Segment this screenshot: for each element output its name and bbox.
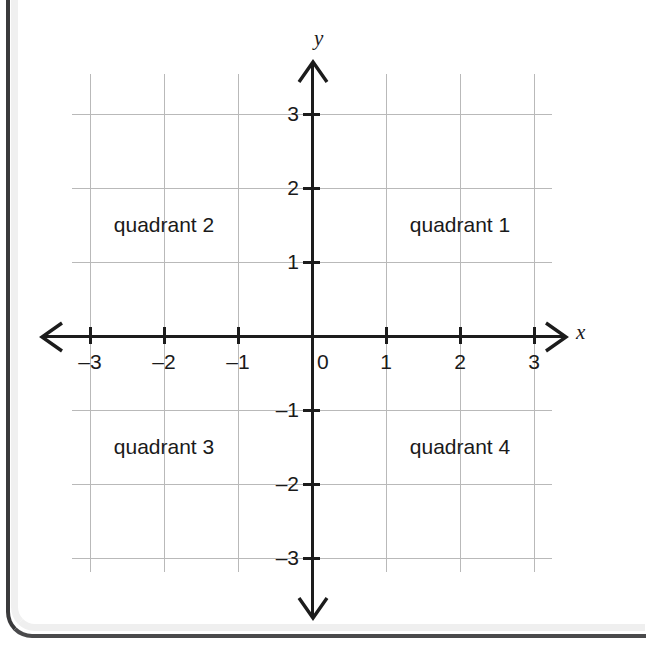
y-axis-tick	[303, 409, 320, 412]
y-axis-top-arrowhead	[296, 56, 330, 90]
x-axis-line	[42, 335, 566, 338]
y-axis-tick-label: –2	[276, 472, 299, 496]
x-axis-tick-label: –2	[152, 350, 175, 374]
y-axis-line	[311, 62, 314, 618]
y-axis-tick-label: –1	[276, 398, 299, 422]
x-axis-tick	[163, 327, 166, 344]
gridline-vertical	[460, 74, 461, 572]
y-axis-tick	[303, 261, 320, 264]
x-axis-tick	[237, 327, 240, 344]
gridline-vertical	[386, 74, 387, 572]
x-axis-right-arrowhead	[538, 320, 572, 354]
x-axis-tick-label: 2	[454, 350, 466, 374]
y-axis-tick-label: –3	[276, 546, 299, 570]
gridline-vertical	[164, 74, 165, 572]
y-axis-bottom-arrowhead	[296, 590, 330, 624]
x-axis-tick	[533, 327, 536, 344]
quadrant-1-label: quadrant 1	[410, 213, 510, 237]
x-axis-tick-label: –3	[78, 350, 101, 374]
y-axis-tick-label: 3	[287, 102, 299, 126]
x-axis-tick-label: –1	[226, 350, 249, 374]
y-axis-tick	[303, 483, 320, 486]
x-axis-label: x	[576, 320, 585, 345]
y-axis-tick	[303, 187, 320, 190]
y-axis-tick-label: 2	[287, 176, 299, 200]
x-axis-tick-label: 1	[380, 350, 392, 374]
x-axis-tick	[385, 327, 388, 344]
x-axis-left-arrowhead	[36, 320, 70, 354]
quadrant-3-label: quadrant 3	[114, 435, 214, 459]
gridline-vertical	[534, 74, 535, 572]
y-axis-tick	[303, 557, 320, 560]
x-axis-tick-label: 3	[528, 350, 540, 374]
gridline-vertical	[238, 74, 239, 572]
x-axis-tick	[89, 327, 92, 344]
origin-label: 0	[317, 350, 329, 374]
y-axis-tick	[303, 113, 320, 116]
y-axis-label: y	[314, 26, 323, 51]
quadrant-2-label: quadrant 2	[114, 213, 214, 237]
quadrant-4-label: quadrant 4	[410, 435, 510, 459]
x-axis-tick	[459, 327, 462, 344]
gridline-vertical	[90, 74, 91, 572]
y-axis-tick-label: 1	[287, 250, 299, 274]
